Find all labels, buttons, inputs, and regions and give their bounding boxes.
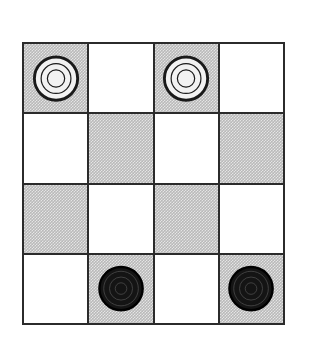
board-square-r4c1[interactable] [24,255,87,323]
board-square-r2c3[interactable] [155,114,218,182]
board-square-r3c3[interactable] [155,185,218,253]
board-square-r4c3[interactable] [155,255,218,323]
board-square-r4c2[interactable] [89,255,152,323]
board-square-r1c2[interactable] [89,44,152,112]
light-piece-icon[interactable] [32,54,80,103]
board-square-r1c3[interactable] [155,44,218,112]
dark-piece-icon[interactable] [97,264,145,313]
light-piece-icon[interactable] [162,54,210,103]
board-square-r3c2[interactable] [89,185,152,253]
dark-piece-icon[interactable] [227,264,275,313]
board-square-r3c4[interactable] [220,185,283,253]
board-square-r1c4[interactable] [220,44,283,112]
checkers-board-figure [0,0,310,352]
board-square-r1c1[interactable] [24,44,87,112]
board-square-r4c4[interactable] [220,255,283,323]
board-square-r2c2[interactable] [89,114,152,182]
checkers-board[interactable] [22,42,285,325]
board-square-r3c1[interactable] [24,185,87,253]
board-square-r2c4[interactable] [220,114,283,182]
board-square-r2c1[interactable] [24,114,87,182]
